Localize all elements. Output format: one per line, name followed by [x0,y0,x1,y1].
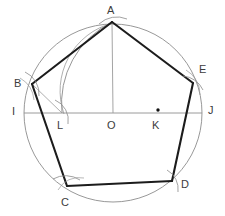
point-label-i: I [12,106,15,117]
point-label-a: A [107,5,114,16]
point-label-k: K [152,120,159,131]
pentagon-construction-figure: A B C D E I J L O K [0,0,225,216]
pentagon-side-ab [32,22,112,84]
point-label-o: O [107,120,116,131]
point-label-j: J [208,105,214,116]
point-label-b: B [14,78,21,89]
point-label-e: E [199,64,206,75]
point-label-d: D [181,179,189,190]
radius-oa [112,22,113,113]
pentagon-side-ea [112,22,193,83]
point-label-l: L [57,120,63,131]
pentagon-side-de [172,83,193,181]
pentagon-side-cd [67,181,172,186]
point-dot-k [156,108,159,111]
arc-at-c-secondary [58,177,84,190]
construction-drawing [0,0,225,216]
point-label-c: C [61,197,69,208]
